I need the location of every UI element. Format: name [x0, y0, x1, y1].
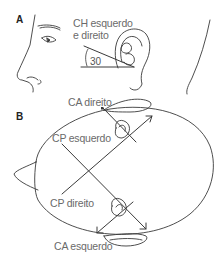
horizontal-canal-label-line2: e direito: [73, 30, 109, 41]
ear-icon: [115, 29, 150, 90]
anterior-canal-left-label: CA esquerdo: [54, 241, 113, 252]
panel-a-label: A: [16, 14, 23, 25]
semicircular-canals-diagram: A B CH esquerdo e direito 30 CA direito …: [0, 0, 222, 256]
face-profile-icon: [17, 15, 60, 92]
panel-b-label: B: [16, 111, 23, 122]
head-back-contour-icon: [187, 20, 210, 94]
posterior-canal-left-label: CP esquerdo: [52, 133, 111, 144]
horizontal-canal-label-line1: CH esquerdo: [73, 18, 133, 29]
angle-value: 30: [90, 56, 101, 67]
head-top-view-icon: [14, 99, 213, 246]
anterior-canal-right-label: CA direito: [68, 97, 112, 108]
posterior-canal-right-label: CP direito: [50, 198, 94, 209]
diagram-illustration: [0, 0, 222, 256]
